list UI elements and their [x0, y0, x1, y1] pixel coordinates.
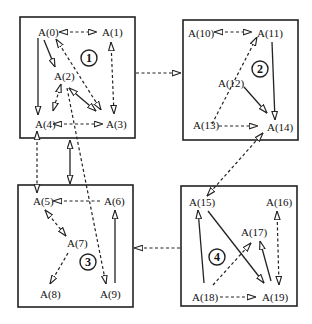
- agent-cluster-diagram: 1 2 3 4 A(0) A(1) A(2) A(3) A(4) A(10) A…: [0, 0, 312, 324]
- edge-a2-a4: [53, 84, 61, 111]
- node-a5: A(5): [33, 195, 54, 208]
- edge-a2-a3: [69, 88, 96, 111]
- node-a1: A(1): [102, 26, 123, 39]
- node-a3: A(3): [106, 118, 127, 131]
- edge-a19-a17: [260, 241, 271, 281]
- edge-a12-a14: [244, 87, 267, 113]
- svg-text:4: 4: [214, 250, 220, 264]
- edge-a0-a2: [44, 40, 55, 67]
- edge-a11-a14: [272, 42, 275, 120]
- node-a11: A(11): [257, 27, 283, 40]
- node-a14: A(14): [267, 121, 294, 134]
- node-a8: A(8): [40, 288, 61, 301]
- node-a7: A(7): [67, 237, 88, 250]
- node-a15: A(15): [189, 196, 216, 209]
- node-a18: A(18): [192, 291, 219, 304]
- edge-a7-a8: [50, 253, 68, 284]
- node-a17: A(17): [241, 226, 268, 239]
- node-a0: A(0): [38, 26, 59, 39]
- node-a16: A(16): [266, 196, 293, 209]
- svg-text:3: 3: [85, 255, 91, 269]
- edge-a16-a19: [277, 211, 279, 285]
- edge-a1-a3: [111, 42, 114, 114]
- cluster-3-badge: 3: [80, 254, 96, 270]
- node-a9: A(9): [100, 288, 121, 301]
- edge-a18-a15: [198, 210, 204, 283]
- node-a6: A(6): [104, 195, 125, 208]
- node-a13: A(13): [193, 119, 220, 132]
- svg-text:1: 1: [86, 51, 92, 65]
- cluster-4-badge: 4: [209, 249, 225, 265]
- cluster-1-badge: 1: [81, 50, 97, 66]
- node-a4: A(4): [35, 118, 56, 131]
- node-a2: A(2): [54, 70, 75, 83]
- svg-text:2: 2: [257, 62, 263, 76]
- cluster-2-badge: 2: [252, 61, 268, 77]
- node-a12: A(12): [218, 77, 245, 90]
- node-a19: A(19): [262, 291, 289, 304]
- edge-a5-a7: [45, 210, 66, 236]
- edge-a15-a19: [208, 211, 264, 283]
- node-a10: A(10): [188, 27, 215, 40]
